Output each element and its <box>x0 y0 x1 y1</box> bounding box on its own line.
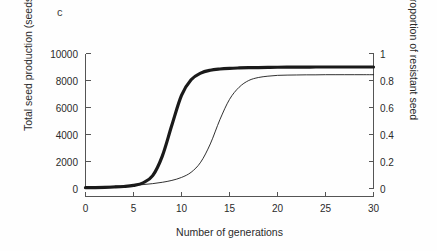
left-tick-label-3: 6000 <box>28 102 78 113</box>
x-tick-label-2: 10 <box>176 203 187 214</box>
right-tick-label-1: 0.2 <box>380 156 420 167</box>
left-tick-label-2: 4000 <box>28 129 78 140</box>
x-tick-label-1: 5 <box>131 203 137 214</box>
right-tick-label-0: 0 <box>380 183 420 194</box>
data-series-1 <box>86 75 374 187</box>
right-tick-label-2: 0.4 <box>380 129 420 140</box>
x-tick-label-0: 0 <box>83 203 89 214</box>
panel-label: c <box>57 6 63 18</box>
right-tick-label-3: 0.6 <box>380 102 420 113</box>
figure-panel: c Total seed production (seeds m-2) Prop… <box>0 0 437 251</box>
left-tick-label-5: 10000 <box>28 48 78 59</box>
left-tick-label-4: 8000 <box>28 75 78 86</box>
series-layer <box>86 67 374 188</box>
x-tick-label-5: 25 <box>320 203 331 214</box>
right-tick-label-4: 0.8 <box>380 75 420 86</box>
x-tick-label-3: 15 <box>224 203 235 214</box>
x-tick-label-4: 20 <box>272 203 283 214</box>
right-tick-label-5: 1 <box>380 48 420 59</box>
x-tick-label-6: 30 <box>368 203 379 214</box>
left-tick-label-1: 2000 <box>28 156 78 167</box>
x-axis-title: Number of generations <box>85 226 374 238</box>
data-series-0 <box>86 67 374 188</box>
left-tick-label-0: 0 <box>28 183 78 194</box>
